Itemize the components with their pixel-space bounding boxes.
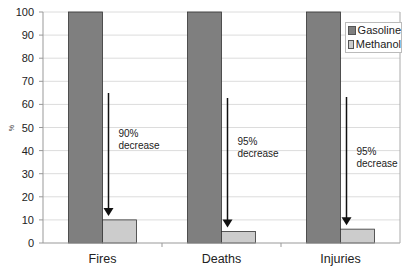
legend-label: Methanol — [356, 38, 401, 50]
y-tick-label: 100 — [16, 6, 34, 18]
gasoline-swatch — [348, 26, 356, 35]
legend-item-gasoline: Gasoline — [346, 23, 401, 37]
legend: Gasoline Methanol — [345, 22, 402, 53]
methanol-swatch — [348, 40, 354, 49]
legend-item-methanol: Methanol — [346, 37, 401, 51]
y-tick-label: 10 — [22, 214, 34, 226]
x-category-label: Fires — [89, 252, 117, 266]
annotation-decrease: decrease — [119, 140, 161, 151]
y-tick-label: 0 — [28, 237, 34, 249]
y-tick-label: 70 — [22, 75, 34, 87]
decrease-arrows: 90%decrease95%decrease95%decrease — [104, 93, 399, 227]
y-tick-label: 80 — [22, 52, 34, 64]
x-category-label: Injuries — [320, 252, 360, 266]
bar-gasoline-fires — [69, 12, 103, 243]
y-tick-label: 20 — [22, 191, 34, 203]
x-axis-categories: FiresDeathsInjuries — [89, 243, 361, 266]
bar-methanol-injuries — [341, 229, 375, 243]
annotation-decrease: decrease — [357, 158, 399, 169]
arrow-down-icon — [104, 208, 114, 216]
x-category-label: Deaths — [202, 252, 242, 266]
annotation-percent: 95% — [238, 136, 258, 147]
bar-methanol-deaths — [222, 231, 256, 243]
annotation-decrease: decrease — [238, 148, 280, 159]
y-tick-label: 50 — [22, 122, 34, 134]
legend-label: Gasoline — [358, 24, 401, 36]
annotation-percent: 90% — [119, 128, 139, 139]
y-axis-label: % — [8, 125, 15, 131]
y-axis-ticks: 0102030405060708090100 — [16, 6, 43, 249]
y-tick-label: 30 — [22, 168, 34, 180]
bar-gasoline-deaths — [188, 12, 222, 243]
y-tick-label: 90 — [22, 29, 34, 41]
bar-gasoline-injuries — [307, 12, 341, 243]
arrow-down-icon — [223, 219, 233, 227]
bar-methanol-fires — [103, 220, 137, 243]
y-tick-label: 40 — [22, 145, 34, 157]
arrow-down-icon — [342, 217, 352, 225]
y-tick-label: 60 — [22, 98, 34, 110]
annotation-percent: 95% — [357, 146, 377, 157]
